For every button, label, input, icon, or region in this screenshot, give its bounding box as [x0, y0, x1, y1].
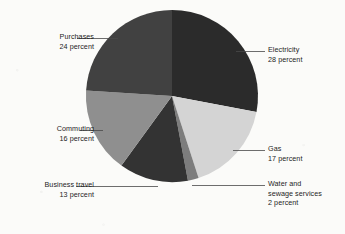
- pie-label-commuting-name: Commuting: [8, 124, 94, 134]
- pie-label-purchases: Purchases 24 percent: [16, 32, 94, 51]
- pie-label-electricity-value: 28 percent: [268, 55, 344, 65]
- pie-label-business-travel-value: 13 percent: [2, 190, 94, 200]
- pie-slice-purchases[interactable]: [86, 10, 172, 96]
- pie-label-gas-name: Gas: [268, 144, 344, 154]
- pie-label-commuting-value: 16 percent: [8, 134, 94, 144]
- pie-label-purchases-name: Purchases: [16, 32, 94, 42]
- pie-label-electricity: Electricity 28 percent: [268, 45, 344, 64]
- pie-label-gas-value: 17 percent: [268, 154, 344, 164]
- pie-label-gas: Gas 17 percent: [268, 144, 344, 163]
- pie-label-purchases-value: 24 percent: [16, 42, 94, 52]
- pie-label-water-and-sewage: Water and sewage services 2 percent: [268, 179, 345, 208]
- pie-label-water-and-sewage-value: 2 percent: [268, 198, 345, 208]
- pie-slices: [86, 10, 258, 182]
- pie-chart-figure: Purchases 24 percent Commuting 16 percen…: [0, 0, 345, 234]
- pie-label-business-travel: Business travel 13 percent: [2, 180, 94, 199]
- pie-label-water-and-sewage-name-line2: sewage services: [268, 189, 345, 199]
- pie-label-business-travel-name: Business travel: [2, 180, 94, 190]
- pie-slice-electricity[interactable]: [172, 10, 258, 112]
- pie-label-water-and-sewage-name-line1: Water and: [268, 179, 345, 189]
- pie-label-commuting: Commuting 16 percent: [8, 124, 94, 143]
- pie-label-electricity-name: Electricity: [268, 45, 344, 55]
